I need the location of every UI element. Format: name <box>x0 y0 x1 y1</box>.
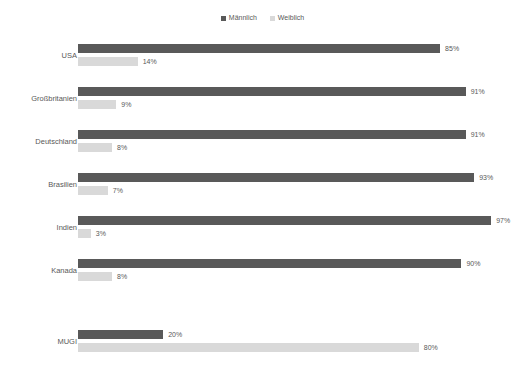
bar-female[interactable]: 80% <box>78 343 438 352</box>
bar-value-label: 90% <box>466 260 480 268</box>
bar-rect <box>78 216 491 225</box>
bar-male[interactable]: 97% <box>78 216 510 225</box>
bar-female[interactable]: 9% <box>78 100 131 109</box>
bar-rect <box>78 44 440 53</box>
bar-rect <box>78 57 138 66</box>
bar-male[interactable]: 91% <box>78 87 485 96</box>
category-label: Indien <box>57 223 77 232</box>
category-label: Deutschland <box>35 137 77 146</box>
bar-value-label: 20% <box>168 331 182 339</box>
bar-rect <box>78 330 163 339</box>
bar-female[interactable]: 3% <box>78 229 106 238</box>
bar-male[interactable]: 85% <box>78 44 459 53</box>
bar-rect <box>78 259 461 268</box>
bar-rect <box>78 143 112 152</box>
bar-value-label: 97% <box>496 217 510 225</box>
bar-female[interactable]: 8% <box>78 272 127 281</box>
category-label: MUGI <box>57 337 77 346</box>
bar-value-label: 93% <box>479 174 493 182</box>
bar-value-label: 85% <box>445 45 459 53</box>
bar-male[interactable]: 20% <box>78 330 182 339</box>
bar-rect <box>78 130 466 139</box>
bar-value-label: 8% <box>117 144 127 152</box>
category-label: Brasilien <box>48 180 77 189</box>
bar-rect <box>78 272 112 281</box>
bar-value-label: 80% <box>424 344 438 352</box>
category-label: USA <box>62 51 77 60</box>
clipped-footer <box>0 365 525 373</box>
bar-female[interactable]: 7% <box>78 186 123 195</box>
bar-chart: Männlich Weiblich USA85%14%Großbritanien… <box>0 0 525 373</box>
bar-rect <box>78 100 116 109</box>
bar-male[interactable]: 93% <box>78 173 493 182</box>
bar-female[interactable]: 14% <box>78 57 157 66</box>
bar-rect <box>78 343 419 352</box>
bar-value-label: 91% <box>471 131 485 139</box>
category-label: Großbritanien <box>31 94 77 103</box>
bar-value-label: 7% <box>113 187 123 195</box>
bar-rect <box>78 186 108 195</box>
category-label: Kanada <box>51 266 77 275</box>
bar-rect <box>78 173 474 182</box>
bar-male[interactable]: 90% <box>78 259 480 268</box>
bar-value-label: 8% <box>117 273 127 281</box>
bar-rect <box>78 229 91 238</box>
bar-female[interactable]: 8% <box>78 143 127 152</box>
bar-value-label: 3% <box>96 230 106 238</box>
bar-value-label: 14% <box>143 58 157 66</box>
bar-male[interactable]: 91% <box>78 130 485 139</box>
bar-value-label: 9% <box>121 101 131 109</box>
bar-value-label: 91% <box>471 88 485 96</box>
plot-area: USA85%14%Großbritanien91%9%Deutschland91… <box>0 0 525 373</box>
bar-rect <box>78 87 466 96</box>
